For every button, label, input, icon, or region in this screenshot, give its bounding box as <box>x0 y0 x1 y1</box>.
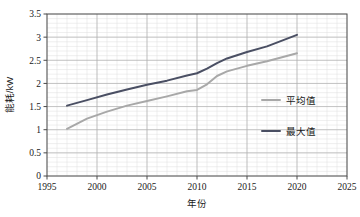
y-tick-label: 2 <box>36 79 41 89</box>
x-tick-label: 2020 <box>288 182 307 192</box>
chart-figure: 199520002005201020152020202500.511.522.5… <box>0 0 360 217</box>
x-tick-label: 2015 <box>238 182 257 192</box>
legend-label: 平均值 <box>286 95 316 106</box>
line-chart: 199520002005201020152020202500.511.522.5… <box>0 0 360 217</box>
y-tick-label: 0.5 <box>29 148 41 158</box>
x-tick-label: 2005 <box>138 182 157 192</box>
y-tick-label: 0 <box>36 171 41 181</box>
y-axis-title: 能耗/kW <box>4 77 15 113</box>
y-tick-label: 3 <box>36 33 41 43</box>
y-tick-label: 2.5 <box>29 56 41 66</box>
y-tick-label: 3.5 <box>29 9 41 19</box>
y-tick-label: 1.5 <box>29 102 41 112</box>
x-tick-label: 2010 <box>188 182 207 192</box>
y-tick-label: 1 <box>36 125 41 135</box>
x-axis-title: 年份 <box>187 198 207 209</box>
legend-label: 最大值 <box>286 126 316 137</box>
x-tick-label: 1995 <box>38 182 57 192</box>
x-tick-label: 2000 <box>88 182 107 192</box>
x-tick-label: 2025 <box>338 182 357 192</box>
